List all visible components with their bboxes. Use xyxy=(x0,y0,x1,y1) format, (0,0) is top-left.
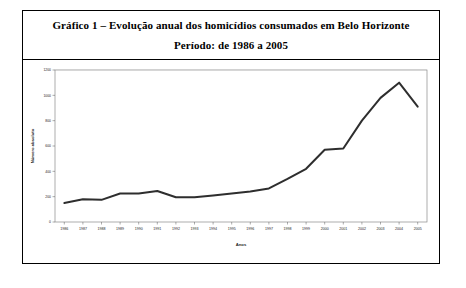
x-axis-tick-label: 1994 xyxy=(209,227,217,231)
figure-title-block: Gráfico 1 – Evolução anual dos homicídio… xyxy=(23,11,439,59)
x-axis-tick-label: 1995 xyxy=(228,227,236,231)
x-axis-tick-label: 2004 xyxy=(395,227,403,231)
plot-wrapper: 020040060080010001200 198619871988198919… xyxy=(23,60,439,252)
y-axis-tick-label: 400 xyxy=(45,170,51,174)
x-axis-tick-label: 2000 xyxy=(321,227,329,231)
x-axis-tick-label: 1996 xyxy=(246,227,254,231)
plot-frame xyxy=(55,70,427,222)
x-axis-tick-label: 1986 xyxy=(60,227,68,231)
y-axis-tick-label: 600 xyxy=(45,144,51,148)
x-axis-title: Anos xyxy=(236,242,247,247)
y-axis-tick-label: 200 xyxy=(45,195,51,199)
y-axis-tick-labels: 020040060080010001200 xyxy=(43,68,51,224)
x-axis-tick-label: 1987 xyxy=(79,227,87,231)
y-axis-tick-label: 1000 xyxy=(43,94,51,98)
x-axis-tick-label: 2001 xyxy=(339,227,347,231)
figure-title-line-1: Gráfico 1 – Evolução anual dos homicídio… xyxy=(33,18,429,33)
y-axis-ticks xyxy=(53,70,56,222)
y-axis-tick-label: 0 xyxy=(49,220,51,224)
x-axis-tick-label: 1989 xyxy=(116,227,124,231)
x-axis-tick-label: 2003 xyxy=(377,227,385,231)
x-axis-tick-label: 1997 xyxy=(265,227,273,231)
x-axis-tick-label: 1992 xyxy=(172,227,180,231)
x-axis-tick-label: 1993 xyxy=(191,227,199,231)
x-axis-tick-label: 1990 xyxy=(135,227,143,231)
x-axis-tickmarks xyxy=(64,222,417,225)
y-axis-tick-label: 1200 xyxy=(43,68,51,72)
x-axis-tick-label: 1998 xyxy=(284,227,292,231)
y-axis-title: Número absoluto xyxy=(30,128,35,163)
figure-title-line-2: Período: de 1986 a 2005 xyxy=(33,38,429,53)
x-axis-tick-label: 1991 xyxy=(153,227,161,231)
x-axis-tick-labels: 1986198719881989199019911992199319941995… xyxy=(60,227,421,231)
x-axis-tick-label: 2002 xyxy=(358,227,366,231)
x-axis-tick-label: 1999 xyxy=(302,227,310,231)
chart-area: 020040060080010001200 198619871988198919… xyxy=(23,60,439,252)
line-chart: 020040060080010001200 198619871988198919… xyxy=(23,60,439,252)
figure-container: Gráfico 1 – Evolução anual dos homicídio… xyxy=(22,10,440,264)
x-axis-tick-label: 1988 xyxy=(98,227,106,231)
y-axis-tick-label: 800 xyxy=(45,119,51,123)
x-axis-tick-label: 2005 xyxy=(414,227,422,231)
